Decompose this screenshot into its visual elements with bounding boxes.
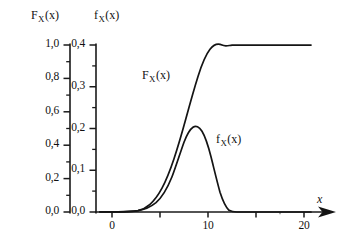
cdf-tick-label: 0,2 xyxy=(31,172,59,184)
cdf-axis-header-subscript: X xyxy=(38,14,45,24)
pdf-curve xyxy=(100,126,311,212)
pdf-axis-header: fX(x) xyxy=(94,9,119,24)
pdf-tick-label: 0,3 xyxy=(57,80,85,92)
cdf-axis-header-symbol: F xyxy=(31,8,38,22)
pdf-tick-label: 0,4 xyxy=(57,38,85,50)
pdf-tick-label: 0,0 xyxy=(57,205,85,217)
cdf-curve-label-subscript: X xyxy=(149,74,156,84)
pdf-axis-header-argument: (x) xyxy=(105,8,119,22)
x-tick-label: 20 xyxy=(295,220,313,232)
pdf-curve-label: fX(x) xyxy=(216,133,241,148)
pdf-tick-label: 0,1 xyxy=(57,163,85,175)
x-tick-label: 10 xyxy=(199,220,217,232)
cdf-curve-label-argument: (x) xyxy=(156,68,170,82)
cdf-tick-label: 0,8 xyxy=(31,71,59,83)
pdf-tick-label: 0,2 xyxy=(57,122,85,134)
cdf-curve xyxy=(100,44,311,212)
cdf-tick-label: 1,0 xyxy=(31,38,59,50)
pdf-curve-label-argument: (x) xyxy=(227,132,241,146)
cdf-curve-label: FX(x) xyxy=(142,69,170,84)
distribution-figure: FX(x) fX(x) 1,0 0,8 0,6 0,4 0,2 0,0 0,4 … xyxy=(0,0,348,249)
cdf-tick-label: 0,0 xyxy=(31,205,59,217)
cdf-tick-label: 0,4 xyxy=(31,138,59,150)
x-tick-label: 0 xyxy=(104,220,120,232)
cdf-axis-header: FX(x) xyxy=(31,9,59,24)
cdf-axis-header-argument: (x) xyxy=(45,8,59,22)
pdf-y-axis xyxy=(90,44,97,212)
cdf-curve-label-symbol: F xyxy=(142,68,149,82)
x-axis-name: x xyxy=(317,193,322,205)
cdf-tick-label: 0,6 xyxy=(31,105,59,117)
